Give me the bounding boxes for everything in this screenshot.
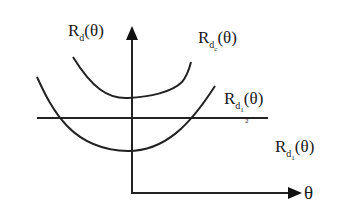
upper-curve-label: Rdc(θ) [198, 29, 237, 46]
label-arg: (θ) [295, 137, 314, 156]
label-base: R [224, 89, 235, 108]
label-base: R [198, 28, 209, 47]
label-arg: (θ) [217, 28, 236, 47]
label-base: R [68, 21, 79, 40]
x-axis-label: θ [304, 183, 313, 202]
y-axis-label: Rd(θ) [68, 22, 104, 39]
label-subscript: d [79, 32, 84, 43]
y-axis-arrow-icon [126, 26, 138, 40]
lower-curve-label: Rd1(θ) [224, 90, 263, 107]
x-axis-arrow-icon [288, 187, 302, 199]
diagram-canvas [0, 0, 349, 215]
label-subsubscript: 1 [291, 154, 295, 162]
label-base: R [275, 137, 286, 156]
lower-curve [37, 77, 215, 151]
label-arg: (θ) [244, 89, 263, 108]
lower-curve-label-denominator: 2 [245, 118, 249, 125]
flat-line-label: Rd1(θ) [275, 138, 314, 155]
label-arg: (θ) [84, 21, 103, 40]
label-subsubscript: c [214, 45, 217, 53]
label-subsubscript: 1 [240, 106, 244, 114]
